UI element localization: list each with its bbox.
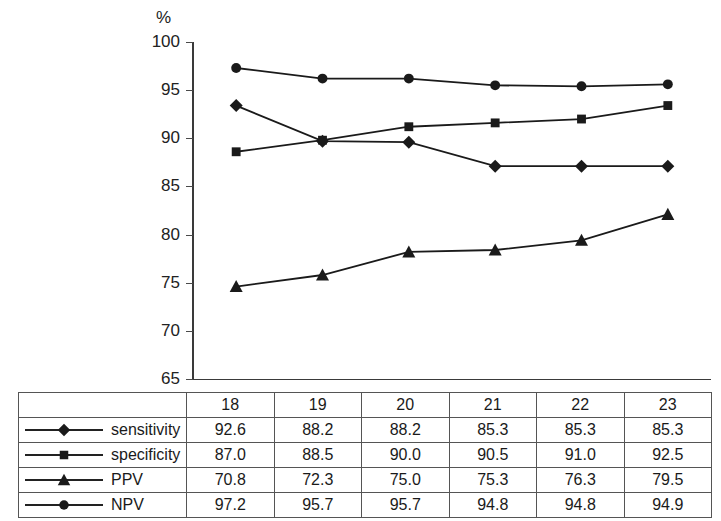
cell-PPV-18: 70.8 bbox=[187, 468, 275, 493]
series-line bbox=[236, 106, 668, 152]
legend-item-NPV: NPV bbox=[19, 493, 187, 518]
legend-item-specificity: specificity bbox=[19, 443, 187, 468]
data-point bbox=[230, 99, 243, 112]
data-point bbox=[491, 118, 500, 127]
legend-symbol bbox=[25, 448, 103, 462]
cell-sensitivity-18: 92.6 bbox=[187, 418, 275, 443]
data-point bbox=[402, 136, 415, 149]
table-row: PPV70.872.375.075.376.379.5 bbox=[19, 468, 712, 493]
cell-PPV-23: 79.5 bbox=[624, 468, 712, 493]
data-point bbox=[318, 74, 328, 84]
data-point bbox=[318, 136, 327, 145]
column-header-19: 19 bbox=[274, 393, 362, 418]
series-NPV bbox=[231, 63, 673, 91]
data-table: 181920212223sensitivity92.688.288.285.38… bbox=[18, 392, 712, 512]
legend-label: sensitivity bbox=[103, 421, 180, 439]
y-axis-tick bbox=[186, 379, 193, 380]
y-axis-tick bbox=[186, 283, 193, 284]
data-point bbox=[404, 122, 413, 131]
cell-PPV-22: 76.3 bbox=[537, 468, 625, 493]
y-axis-label: 90 bbox=[134, 128, 180, 148]
cell-sensitivity-22: 85.3 bbox=[537, 418, 625, 443]
column-header-22: 22 bbox=[537, 393, 625, 418]
y-axis-label: 75 bbox=[134, 273, 180, 293]
table-header-row: 181920212223 bbox=[19, 393, 712, 418]
y-axis-tick bbox=[186, 235, 193, 236]
chart-page: % 65707580859095100 181920212223sensitiv… bbox=[0, 0, 721, 521]
cell-NPV-20: 95.7 bbox=[362, 493, 450, 518]
cell-PPV-19: 72.3 bbox=[274, 468, 362, 493]
column-header-21: 21 bbox=[449, 393, 537, 418]
data-point bbox=[575, 160, 588, 173]
series-PPV bbox=[230, 208, 675, 292]
cell-specificity-20: 90.0 bbox=[362, 443, 450, 468]
y-axis-tick bbox=[186, 331, 193, 332]
data-point bbox=[231, 63, 241, 73]
cell-specificity-23: 92.5 bbox=[624, 443, 712, 468]
column-header-18: 18 bbox=[187, 393, 275, 418]
triangle-marker-icon bbox=[56, 472, 72, 488]
series-sensitivity bbox=[230, 99, 675, 173]
data-point bbox=[663, 101, 672, 110]
cell-specificity-21: 90.5 bbox=[449, 443, 537, 468]
y-axis-label: 85 bbox=[134, 176, 180, 196]
cell-NPV-21: 94.8 bbox=[449, 493, 537, 518]
y-axis-unit-label: % bbox=[156, 8, 171, 28]
legend-label: NPV bbox=[103, 496, 144, 514]
series-specificity bbox=[232, 101, 673, 156]
data-point bbox=[663, 79, 673, 89]
cell-NPV-23: 94.9 bbox=[624, 493, 712, 518]
cell-NPV-22: 94.8 bbox=[537, 493, 625, 518]
table-corner-blank bbox=[19, 393, 187, 418]
y-axis-label: 80 bbox=[134, 225, 180, 245]
cell-sensitivity-19: 88.2 bbox=[274, 418, 362, 443]
y-axis-label: 70 bbox=[134, 321, 180, 341]
data-point bbox=[489, 160, 502, 173]
circle-marker-icon bbox=[56, 497, 72, 513]
series-layer bbox=[193, 42, 711, 379]
column-header-23: 23 bbox=[624, 393, 712, 418]
legend-symbol bbox=[25, 473, 103, 487]
cell-specificity-22: 91.0 bbox=[537, 443, 625, 468]
series-line bbox=[236, 68, 668, 86]
cell-NPV-18: 97.2 bbox=[187, 493, 275, 518]
x-axis-line bbox=[192, 379, 711, 380]
table-row: specificity87.088.590.090.591.092.5 bbox=[19, 443, 712, 468]
series-line bbox=[236, 214, 668, 286]
cell-specificity-18: 87.0 bbox=[187, 443, 275, 468]
data-point bbox=[661, 208, 674, 220]
table-row: sensitivity92.688.288.285.385.385.3 bbox=[19, 418, 712, 443]
line-chart: % 65707580859095100 bbox=[0, 0, 721, 392]
column-header-20: 20 bbox=[362, 393, 450, 418]
data-point bbox=[404, 74, 414, 84]
legend-label: PPV bbox=[103, 471, 143, 489]
y-axis-label: 100 bbox=[134, 32, 180, 52]
series-line bbox=[236, 106, 668, 167]
cell-sensitivity-20: 88.2 bbox=[362, 418, 450, 443]
data-point bbox=[577, 115, 586, 124]
cell-PPV-20: 75.0 bbox=[362, 468, 450, 493]
data-point bbox=[232, 147, 241, 156]
cell-sensitivity-21: 85.3 bbox=[449, 418, 537, 443]
y-axis-tick bbox=[186, 42, 193, 43]
legend-item-PPV: PPV bbox=[19, 468, 187, 493]
data-point bbox=[661, 160, 674, 173]
cell-PPV-21: 75.3 bbox=[449, 468, 537, 493]
diamond-marker-icon bbox=[56, 422, 72, 438]
legend-item-sensitivity: sensitivity bbox=[19, 418, 187, 443]
y-axis-tick bbox=[186, 186, 193, 187]
cell-specificity-19: 88.5 bbox=[274, 443, 362, 468]
square-marker-icon bbox=[56, 447, 72, 463]
cell-sensitivity-23: 85.3 bbox=[624, 418, 712, 443]
plot-area bbox=[193, 42, 711, 379]
y-axis-label: 95 bbox=[134, 80, 180, 100]
data-point bbox=[490, 80, 500, 90]
cell-NPV-19: 95.7 bbox=[274, 493, 362, 518]
y-axis-tick bbox=[186, 90, 193, 91]
table-row: NPV97.295.795.794.894.894.9 bbox=[19, 493, 712, 518]
y-axis-tick bbox=[186, 138, 193, 139]
legend-label: specificity bbox=[103, 446, 180, 464]
legend-symbol bbox=[25, 498, 103, 512]
y-axis-label: 65 bbox=[134, 369, 180, 389]
data-point bbox=[577, 81, 587, 91]
